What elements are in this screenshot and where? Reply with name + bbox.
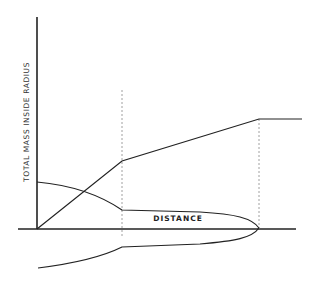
lower-profile-curve (38, 228, 259, 268)
x-axis-label: DISTANCE (153, 214, 203, 223)
mass-curve (37, 119, 302, 229)
mass-distance-diagram (0, 0, 315, 285)
y-axis-label: TOTAL MASS INSIDE RADIUS (22, 62, 31, 182)
upper-profile-curve (37, 182, 259, 228)
